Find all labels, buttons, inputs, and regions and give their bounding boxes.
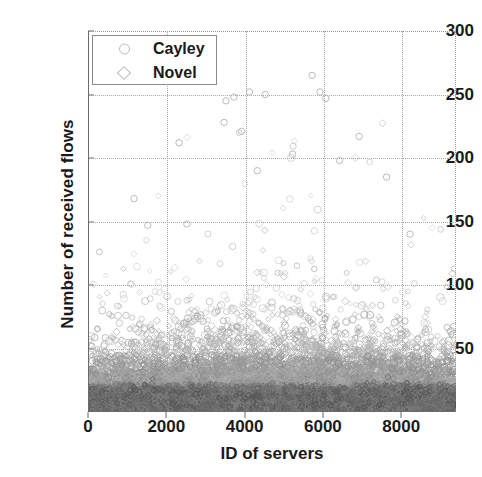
x-axis-title: ID of servers [88,444,456,464]
x-tick-mark [88,412,89,418]
x-tick-mark [166,412,167,418]
x-tick-label: 2000 [147,417,185,437]
x-tick-label: 4000 [226,417,264,437]
legend-entry-novel[interactable]: Novel [93,60,216,85]
legend-entry-cayley[interactable]: Cayley [93,36,216,61]
legend[interactable]: Cayley Novel [92,35,217,85]
circle-marker-icon [119,43,130,54]
diamond-marker-icon [117,65,131,79]
scatter-plot-figure: Number of received flows ID of servers 5… [0,0,482,477]
legend-label-cayley: Cayley [153,40,205,58]
x-tick-mark [244,412,245,418]
y-tick-label: 50 [455,339,474,359]
legend-label-novel: Novel [153,64,197,82]
x-tick-mark [322,412,323,418]
x-tick-label: 0 [83,417,92,437]
x-tick-label: 8000 [382,417,420,437]
data-points-layer [89,31,456,412]
plot-area [88,31,456,412]
x-tick-label: 6000 [304,417,342,437]
x-tick-mark [401,412,402,418]
y-axis-title: Number of received flows [58,74,78,374]
